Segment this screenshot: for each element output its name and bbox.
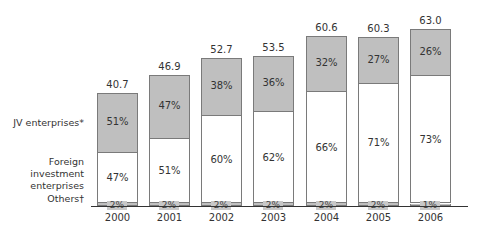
segment-jv-label: 36%: [253, 77, 294, 88]
year-label: 2006: [410, 212, 451, 223]
bar-total: 63.0: [410, 15, 451, 26]
bar-total: 40.7: [97, 79, 138, 90]
segment-fie-label: 62%: [253, 152, 294, 163]
x-axis-baseline: [91, 206, 468, 207]
segment-jv-label: 51%: [97, 116, 138, 127]
bar-total: 60.6: [306, 22, 347, 33]
segment-fie-label: 71%: [358, 137, 399, 148]
label-foreign-investment-enterprises: Foreign investment enterprises: [30, 156, 84, 192]
segment-fie-label: 47%: [97, 172, 138, 183]
segment-fie-label: 60%: [201, 154, 242, 165]
year-label: 2001: [149, 212, 190, 223]
segment-fie-label: 73%: [410, 134, 451, 145]
segment-fie-label: 51%: [149, 165, 190, 176]
segment-fie-label: 66%: [306, 142, 347, 153]
label-fie-line1: Foreign: [30, 156, 84, 168]
label-jv-enterprises: JV enterprises*: [13, 117, 84, 129]
stacked-bar-chart: JV enterprises* Foreign investment enter…: [0, 0, 479, 236]
bar-total: 60.3: [358, 23, 399, 34]
year-label: 2003: [253, 212, 294, 223]
segment-jv-label: 47%: [149, 100, 190, 111]
label-fie-line2: investment: [30, 168, 84, 180]
label-fie-line3: enterprises: [30, 180, 84, 192]
segment-jv-label: 38%: [201, 80, 242, 91]
segment-jv-label: 27%: [358, 54, 399, 65]
label-others: Others†: [47, 193, 84, 205]
segment-jv-label: 32%: [306, 57, 347, 68]
year-label: 2000: [97, 212, 138, 223]
year-label: 2002: [201, 212, 242, 223]
year-label: 2005: [358, 212, 399, 223]
bar-total: 53.5: [253, 42, 294, 53]
bar-total: 46.9: [149, 61, 190, 72]
segment-jv-label: 26%: [410, 46, 451, 57]
year-label: 2004: [306, 212, 347, 223]
bar-total: 52.7: [201, 44, 242, 55]
